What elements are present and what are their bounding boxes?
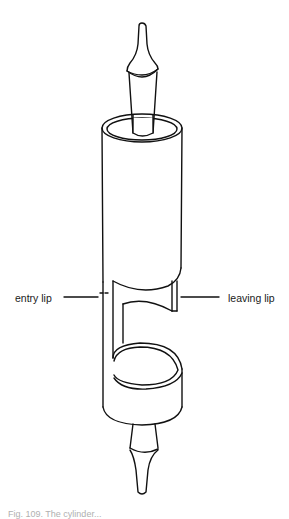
bottom-nozzle xyxy=(130,424,158,494)
upper-cylinder xyxy=(102,114,182,290)
entry-lip-label: entry lip xyxy=(15,292,52,304)
figure-caption: Fig. 109. The cylinder... xyxy=(8,509,101,519)
leaving-lip-label: leaving lip xyxy=(228,292,275,304)
lower-cylinder xyxy=(103,282,182,425)
